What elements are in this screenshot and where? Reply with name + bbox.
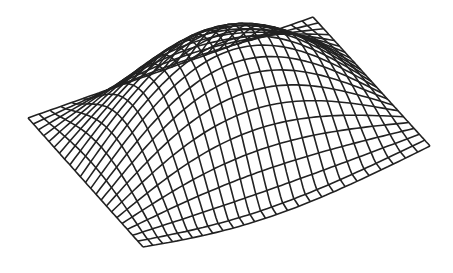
mesh-line <box>138 140 425 241</box>
mesh-line <box>86 36 372 182</box>
figure-canvas <box>0 0 453 273</box>
mesh-line <box>133 134 420 235</box>
wireframe-surface <box>0 0 453 273</box>
mesh-line <box>80 29 366 176</box>
mesh-line <box>291 25 405 158</box>
mesh-line <box>127 128 414 229</box>
